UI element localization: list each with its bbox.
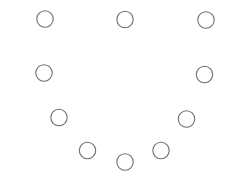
circle-1 [37, 11, 53, 27]
circle-10 [153, 142, 169, 158]
circle-9 [117, 154, 133, 170]
circle-3 [198, 12, 214, 28]
circle-8 [79, 142, 95, 158]
circle-6 [51, 109, 67, 125]
circle-5 [196, 66, 212, 82]
circle-7 [178, 111, 194, 127]
circle-4 [36, 65, 52, 81]
circle-2 [117, 11, 133, 27]
diagram-background [0, 0, 227, 180]
circle-diagram [0, 0, 227, 180]
